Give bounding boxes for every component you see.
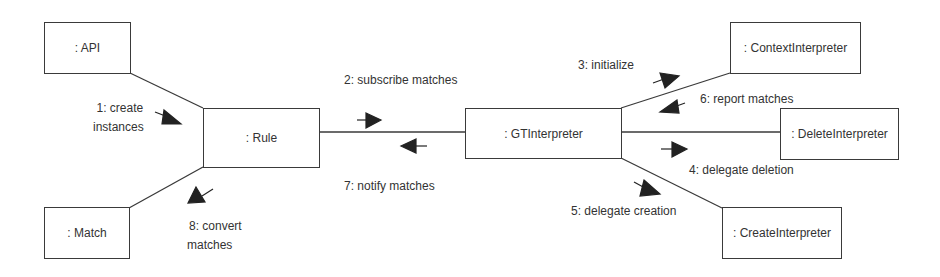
message-4-label: 4: delegate deletion (689, 161, 794, 180)
object-rule: : Rule (203, 108, 320, 168)
arrow-icon-notify-matches (401, 139, 427, 153)
arrow-icon-subscribe-matches (357, 113, 381, 128)
message-2-label: 2: subscribe matches (344, 71, 457, 90)
arrow-icon-report-matches (660, 100, 685, 113)
message-6-label: 6: report matches (700, 90, 793, 109)
object-deleteinterpreter-label: : DeleteInterpreter (791, 127, 888, 141)
arrow-icon-delegate-creation (634, 180, 660, 196)
object-createinterpreter-label: : CreateInterpreter (733, 226, 831, 240)
message-1-label: 1: create instances (93, 99, 144, 137)
object-match: : Match (44, 207, 130, 259)
object-gtinterpreter-label: : GTInterpreter (504, 127, 583, 141)
arrow-icon-convert-matches (188, 187, 213, 203)
object-gtinterpreter: : GTInterpreter (465, 108, 622, 159)
message-7-label: 7: notify matches (344, 177, 435, 196)
object-rule-label: : Rule (246, 131, 277, 145)
arrow-icon-delegate-deletion (661, 142, 687, 157)
object-createinterpreter: : CreateInterpreter (722, 207, 842, 259)
object-contextinterpreter-label: : ContextInterpreter (744, 41, 847, 55)
message-5-label: 5: delegate creation (571, 202, 676, 221)
arrow-icon-initialize (653, 73, 679, 88)
arrow-icon-create-instances (155, 110, 181, 124)
object-match-label: : Match (67, 226, 106, 240)
object-deleteinterpreter: : DeleteInterpreter (780, 108, 899, 160)
message-3-label: 3: initialize (578, 56, 634, 75)
message-8-label: 8: convert matches (187, 217, 242, 255)
object-api-label: : API (75, 41, 100, 55)
object-contextinterpreter: : ContextInterpreter (730, 22, 861, 74)
object-api: : API (44, 22, 131, 74)
